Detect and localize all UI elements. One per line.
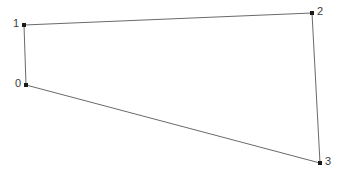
vertex-marker-1[interactable] bbox=[22, 23, 26, 27]
edge-3-0 bbox=[26, 85, 320, 163]
polygon-edges bbox=[24, 13, 320, 163]
diagram-canvas: 0123 bbox=[0, 0, 345, 176]
edge-2-3 bbox=[312, 13, 320, 163]
vertex-label-3: 3 bbox=[325, 156, 331, 167]
vertex-marker-2[interactable] bbox=[310, 11, 314, 15]
vertex-label-2: 2 bbox=[317, 6, 323, 17]
vertex-label-0: 0 bbox=[0, 78, 21, 89]
vertex-marker-3[interactable] bbox=[318, 161, 322, 165]
edge-0-1 bbox=[24, 25, 26, 85]
edge-1-2 bbox=[24, 13, 312, 25]
vertex-markers bbox=[22, 11, 322, 165]
polygon-svg bbox=[0, 0, 345, 176]
vertex-label-1: 1 bbox=[0, 18, 19, 29]
vertex-marker-0[interactable] bbox=[24, 83, 28, 87]
